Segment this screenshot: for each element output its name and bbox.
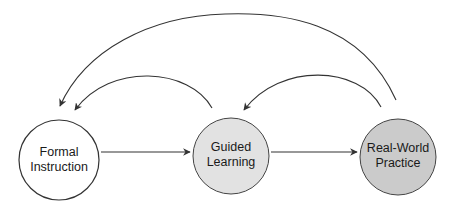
label-real-world-practice: Real-World Practice (367, 141, 429, 171)
arrow-guided-to-formal (75, 76, 212, 110)
arrow-practice-to-formal (60, 14, 396, 106)
label-line: Instruction (30, 160, 88, 175)
label-line: Real-World (367, 141, 429, 156)
diagram-canvas (0, 0, 455, 210)
label-line: Guided (207, 140, 256, 155)
label-line: Learning (207, 155, 256, 170)
label-line: Formal (30, 145, 88, 160)
label-guided-learning: Guided Learning (207, 140, 256, 170)
arrow-practice-to-guided (244, 75, 381, 110)
label-line: Practice (367, 156, 429, 171)
label-formal-instruction: Formal Instruction (30, 145, 88, 175)
